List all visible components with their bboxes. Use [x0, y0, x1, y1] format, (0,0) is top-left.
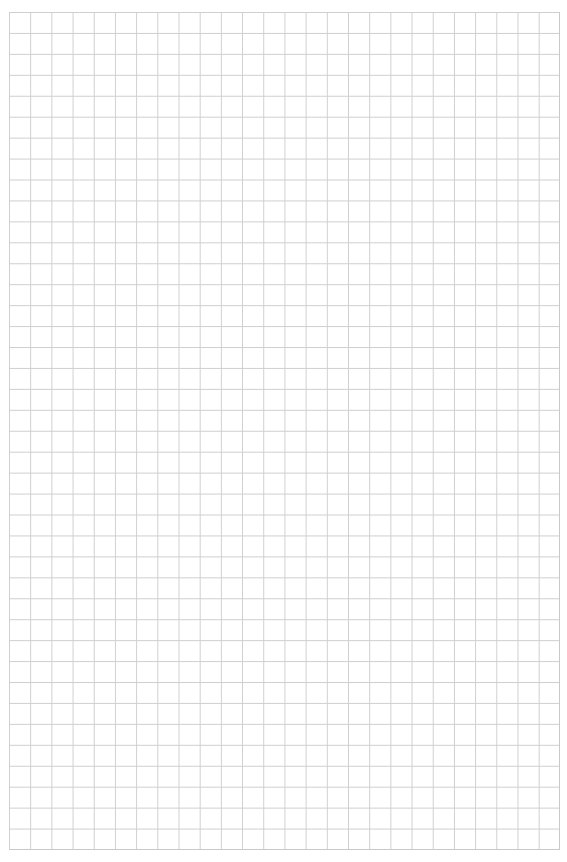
graph-paper-grid — [9, 12, 560, 850]
